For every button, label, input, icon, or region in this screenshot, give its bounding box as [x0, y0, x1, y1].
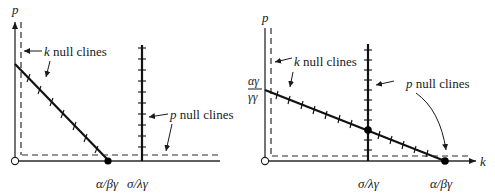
- right-panel: p k αγ γγ: [248, 10, 486, 191]
- y-intercept-label: αγ γγ: [248, 74, 262, 104]
- k-nullcline-label: k null clines: [44, 44, 107, 59]
- tick-label-sigma-lambda-gamma: σ/λγ: [358, 176, 380, 191]
- equilibrium-point-stable: [104, 157, 111, 164]
- tick-label-alpha-beta-gamma: α/βγ: [430, 176, 453, 191]
- k-nullcline-diagonal-pointer-arrow: [290, 72, 293, 87]
- p-nullcline-pointer-arrow: [149, 114, 168, 117]
- p-axis-label: p: [11, 2, 19, 17]
- p-axis-label: p: [261, 10, 269, 25]
- svg-text:αγ: αγ: [248, 74, 259, 88]
- phase-diagram-figure: p k nul: [0, 0, 495, 196]
- p-nullcline-dashed-pointer-arrow: [416, 93, 446, 150]
- left-panel: p k nul: [11, 2, 234, 191]
- k-axis-label: k: [480, 154, 486, 169]
- k-nullcline-label: k null clines: [294, 54, 357, 69]
- p-nullcline-label: p null clines: [405, 76, 470, 91]
- k-nullcline-diagonal: [265, 90, 445, 161]
- equilibrium-point-origin: [11, 157, 18, 164]
- equilibrium-point-k-axis: [441, 157, 449, 165]
- equilibrium-point-interior: [364, 126, 372, 134]
- equilibrium-point-origin: [261, 157, 268, 164]
- p-nullcline-pointer-arrow: [376, 81, 394, 85]
- p-nullcline-dashed-pointer-arrow: [166, 124, 172, 151]
- k-nullcline-pointer-arrow: [275, 58, 292, 62]
- p-nullcline-label: p null clines: [169, 107, 234, 122]
- k-nullcline-diagonal-pointer-arrow: [46, 61, 50, 77]
- tick-label-sigma-lambda-gamma: σ/λγ: [127, 176, 149, 191]
- tick-label-alpha-beta-gamma: α/βγ: [96, 176, 119, 191]
- svg-text:γγ: γγ: [248, 90, 258, 104]
- k-nullcline-diagonal: [15, 64, 108, 160]
